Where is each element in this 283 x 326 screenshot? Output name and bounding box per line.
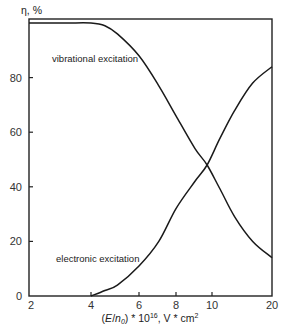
annotation-electronic: electronic excitation (56, 253, 139, 264)
x-tick-label: 6 (136, 299, 142, 311)
y-tick-label: 60 (10, 126, 22, 138)
y-tick-label: 0 (16, 290, 22, 302)
chart-svg: η, % 020406080 24681020 vibrational exci… (0, 0, 283, 326)
x-axis-label: (E/n0) * 1016, V * cm2 (102, 312, 199, 325)
x-tick-label: 2 (28, 299, 34, 311)
x-axis-ticks: 24681020 (28, 292, 278, 311)
y-tick-label: 20 (10, 235, 22, 247)
x-tick-label: 10 (206, 299, 218, 311)
x-tick-label: 8 (173, 299, 179, 311)
x-tick-label: 20 (266, 299, 278, 311)
y-axis-label: η, % (21, 4, 42, 16)
x-tick-label: 4 (88, 299, 94, 311)
annotation-vibrational: vibrational excitation (52, 53, 138, 64)
y-tick-label: 80 (10, 72, 22, 84)
y-tick-label: 40 (10, 181, 22, 193)
